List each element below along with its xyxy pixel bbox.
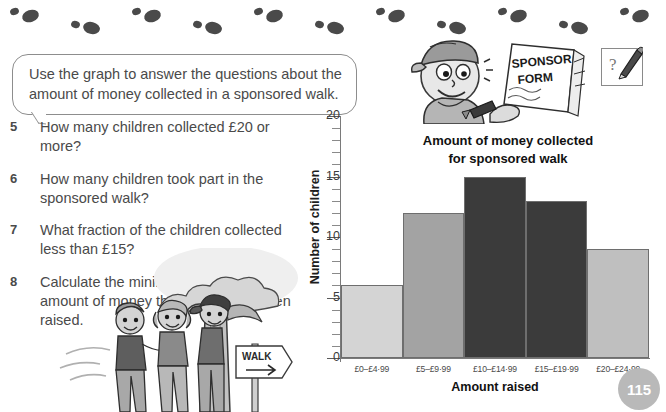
chart-x-axis-label: Amount raised: [341, 380, 649, 394]
chart-title: Amount of money collected for sponsored …: [388, 132, 628, 167]
chart-bar: [526, 201, 588, 358]
y-axis-tick-label: 0: [312, 350, 340, 364]
footprint-icon: [70, 20, 80, 29]
footprint-icon: [558, 20, 568, 29]
chart-bar: [587, 249, 649, 358]
footprint-icon: [9, 7, 20, 16]
chart-title-line1: Amount of money collected: [388, 132, 628, 150]
footprint-icon: [497, 7, 508, 16]
page-number-badge: 115: [618, 368, 660, 410]
y-axis-minor-tick: [332, 201, 340, 202]
question-number: 6: [10, 170, 40, 209]
answer-box-icon: ?: [601, 48, 643, 86]
y-axis-tick-label: 10: [312, 229, 340, 243]
y-axis-tick-label: 15: [312, 169, 340, 183]
pencil-icon: [619, 47, 643, 79]
footprint-icon: [631, 8, 651, 25]
instruction-text: Use the graph to answer the questions ab…: [29, 66, 342, 102]
footprint-icon: [387, 8, 407, 25]
footprint-icon: [509, 8, 529, 25]
y-axis-minor-tick: [332, 152, 340, 153]
chart-bar: [341, 285, 403, 358]
x-axis-tick-label: £10–£14·99: [464, 364, 526, 374]
chart-bar: [403, 213, 465, 358]
y-axis-tick-label: 5: [312, 290, 340, 304]
footprint-icon: [619, 7, 630, 16]
footprint-icon: [192, 20, 202, 29]
chart-title-line2: for sponsored walk: [388, 150, 628, 168]
y-axis-minor-tick: [332, 322, 340, 323]
y-axis-minor-tick: [332, 140, 340, 141]
footprint-icon: [21, 8, 41, 25]
x-axis-tick-label: £0–£4·99: [341, 364, 403, 374]
y-axis-minor-tick: [332, 164, 340, 165]
boy-with-sponsor-form-illustration: SPONSOR FORM: [408, 32, 593, 124]
chart-x-axis-line: [340, 358, 650, 359]
y-axis-minor-tick: [332, 334, 340, 335]
instruction-bubble-body: Use the graph to answer the questions ab…: [12, 54, 357, 115]
chart-x-tick-labels: £0–£4·99£5–£9·99£10–£14·99£15–£19·99£20–…: [341, 364, 649, 374]
y-axis-minor-tick: [332, 273, 340, 274]
question-text: How many children collected £20 or more?: [40, 118, 300, 157]
y-axis-minor-tick: [332, 189, 340, 190]
y-axis-tick-label: 20: [312, 108, 340, 122]
question-item: 6How many children took part in the spon…: [10, 170, 300, 209]
footprint-icon: [82, 20, 101, 36]
x-axis-tick-label: £5–£9·99: [403, 364, 465, 374]
y-axis-minor-tick: [332, 285, 340, 286]
footprint-icon: [326, 20, 345, 36]
question-number: 5: [10, 118, 40, 157]
y-axis-minor-tick: [332, 346, 340, 347]
instruction-bubble: Use the graph to answer the questions ab…: [12, 54, 357, 115]
bar-chart: Number of children 05101520 Amount of mo…: [296, 112, 666, 397]
worksheet-page: Use the graph to answer the questions ab…: [0, 0, 666, 412]
footprint-icon: [131, 7, 142, 16]
question-text: How many children took part in the spons…: [40, 170, 300, 209]
y-axis-minor-tick: [332, 213, 340, 214]
y-axis-minor-tick: [332, 128, 340, 129]
question-item: 5How many children collected £20 or more…: [10, 118, 300, 157]
children-walking-illustration: WALK: [30, 248, 305, 412]
y-axis-minor-tick: [332, 249, 340, 250]
footprint-icon: [204, 20, 223, 36]
y-axis-minor-tick: [332, 261, 340, 262]
walk-sign-label: WALK: [242, 351, 272, 362]
footprint-icon: [143, 8, 163, 25]
chart-bar: [464, 177, 526, 359]
footprint-icon: [436, 20, 446, 29]
y-axis-minor-tick: [332, 310, 340, 311]
footprint-icon: [253, 7, 264, 16]
x-axis-tick-label: £15–£19·99: [526, 364, 588, 374]
footprint-icon: [265, 8, 285, 25]
y-axis-minor-tick: [332, 225, 340, 226]
footprint-icon: [314, 20, 324, 29]
footprint-icon: [375, 7, 386, 16]
